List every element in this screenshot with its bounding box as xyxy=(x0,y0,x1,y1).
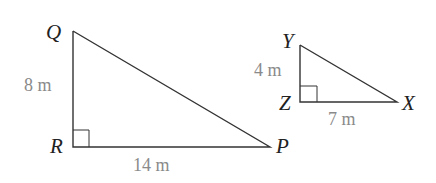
diagram-svg: Q R P 8 m 14 m Y Z X 4 m 7 m xyxy=(0,0,436,183)
triangle-yzx: Y Z X 4 m 7 m xyxy=(254,29,416,129)
vertex-label-r: R xyxy=(49,134,63,158)
triangle-yzx-edges xyxy=(300,45,397,102)
vertex-label-p: P xyxy=(275,134,289,158)
side-label-zx: 7 m xyxy=(328,109,356,129)
triangle-qrp: Q R P 8 m 14 m xyxy=(24,20,289,175)
side-label-qr: 8 m xyxy=(24,75,52,95)
vertex-label-z: Z xyxy=(279,91,291,115)
side-label-rp: 14 m xyxy=(133,155,170,175)
vertex-label-q: Q xyxy=(46,20,61,44)
side-label-yz: 4 m xyxy=(254,60,282,80)
triangle-qrp-edges xyxy=(73,31,270,147)
right-angle-marker-z xyxy=(300,86,317,102)
vertex-label-x: X xyxy=(401,91,416,115)
vertex-label-y: Y xyxy=(282,29,296,53)
similar-triangles-diagram: Q R P 8 m 14 m Y Z X 4 m 7 m xyxy=(0,0,436,183)
right-angle-marker-r xyxy=(73,130,89,147)
